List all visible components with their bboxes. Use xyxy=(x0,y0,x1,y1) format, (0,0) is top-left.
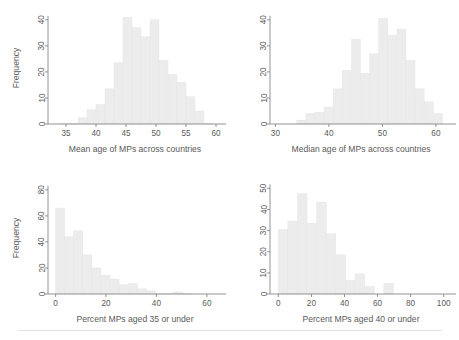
page-divider-rule xyxy=(18,330,442,331)
bar-group xyxy=(297,19,443,124)
y-tick-label: 80 xyxy=(38,185,47,195)
y-tick-label: 40 xyxy=(38,237,47,247)
y-tick-label: 60 xyxy=(38,211,47,221)
histogram-bar xyxy=(137,289,146,294)
histogram-bar xyxy=(365,287,375,294)
y-tick-label: 10 xyxy=(260,93,269,103)
histogram-bar xyxy=(433,114,442,124)
x-tick-label: 20 xyxy=(101,299,111,308)
y-tick-label: 20 xyxy=(38,67,47,77)
x-tick-label: 80 xyxy=(406,299,416,308)
y-tick-label: 30 xyxy=(260,226,269,236)
x-axis-title: Mean age of MPs across countries xyxy=(69,144,201,154)
histogram-bar xyxy=(370,54,379,124)
histogram-bar xyxy=(83,255,92,294)
y-tick-label: 20 xyxy=(260,247,269,257)
x-tick-label: 40 xyxy=(324,129,334,138)
histogram-bar xyxy=(297,194,307,294)
histogram-bar xyxy=(355,274,365,294)
histogram-figure: 010203040354045505560Mean age of MPs acr… xyxy=(0,0,459,340)
histogram-bar xyxy=(150,20,159,124)
bar-group xyxy=(278,194,393,294)
y-tick-label: 20 xyxy=(260,67,269,77)
bar-group xyxy=(60,17,213,124)
histogram-bar xyxy=(424,102,433,124)
x-tick-label: 50 xyxy=(378,129,388,138)
y-tick-label: 40 xyxy=(260,15,269,25)
y-tick-label: 0 xyxy=(38,291,47,296)
histogram-bar xyxy=(159,60,168,124)
histogram-bar xyxy=(110,279,119,294)
histogram-bar xyxy=(326,234,336,294)
x-tick-label: 40 xyxy=(340,299,350,308)
panel-percent-40-under: 01020304050020406080100Percent MPs aged … xyxy=(230,170,459,340)
bar-group xyxy=(56,208,192,294)
x-tick-label: 60 xyxy=(431,129,441,138)
histogram-bar xyxy=(105,89,114,124)
plot-percent-35-under: 0204060800204060Percent MPs aged 35 or u… xyxy=(0,170,229,340)
plot-median-age: 01020304030405060Median age of MPs acros… xyxy=(230,0,459,170)
histogram-bar xyxy=(388,35,397,124)
x-tick-label: 35 xyxy=(61,129,71,138)
histogram-bar xyxy=(96,104,105,124)
y-tick-label: 0 xyxy=(260,121,269,126)
histogram-bar xyxy=(128,284,137,294)
histogram-bar xyxy=(101,275,110,294)
histogram-bar xyxy=(379,19,388,124)
histogram-bar xyxy=(297,120,306,124)
x-tick-label: 40 xyxy=(91,129,101,138)
histogram-bar xyxy=(406,60,415,124)
x-tick-label: 45 xyxy=(121,129,131,138)
histogram-bar xyxy=(345,280,355,294)
x-tick-label: 0 xyxy=(53,299,58,308)
x-tick-label: 55 xyxy=(181,129,191,138)
histogram-bar xyxy=(146,291,155,294)
x-tick-label: 30 xyxy=(271,129,281,138)
histogram-bar xyxy=(360,73,369,124)
histogram-bar xyxy=(336,255,346,294)
histogram-bar xyxy=(114,63,123,124)
histogram-bar xyxy=(132,28,141,124)
histogram-bar xyxy=(317,202,327,294)
x-axis-title: Percent MPs aged 35 or under xyxy=(76,314,193,324)
y-tick-label: 30 xyxy=(38,41,47,51)
plot-percent-40-under: 01020304050020406080100Percent MPs aged … xyxy=(230,170,459,340)
histogram-bar xyxy=(415,89,424,124)
y-tick-label: 30 xyxy=(260,41,269,51)
x-tick-label: 60 xyxy=(211,129,221,138)
plot-mean-age: 010203040354045505560Mean age of MPs acr… xyxy=(0,0,229,170)
histogram-bar xyxy=(168,75,177,124)
x-axis-title: Median age of MPs across countries xyxy=(292,144,431,154)
x-tick-label: 20 xyxy=(307,299,317,308)
y-tick-label: 10 xyxy=(260,268,269,278)
y-tick-label: 50 xyxy=(260,183,269,193)
histogram-bar xyxy=(78,117,87,124)
histogram-bar xyxy=(351,39,360,124)
y-tick-label: 40 xyxy=(38,15,47,25)
y-axis-title: Frequency xyxy=(11,217,21,258)
histogram-bar xyxy=(141,37,150,124)
x-tick-label: 60 xyxy=(202,299,212,308)
histogram-bar xyxy=(324,107,333,124)
histogram-bar xyxy=(288,221,298,294)
histogram-bar xyxy=(195,111,204,124)
y-tick-label: 0 xyxy=(260,291,269,296)
y-tick-label: 20 xyxy=(38,263,47,273)
y-tick-label: 0 xyxy=(38,121,47,126)
panel-percent-35-under: 0204060800204060Percent MPs aged 35 or u… xyxy=(0,170,229,340)
histogram-bar xyxy=(119,285,128,294)
histogram-bar xyxy=(65,237,74,294)
histogram-bar xyxy=(384,283,394,294)
x-tick-label: 100 xyxy=(437,299,451,308)
histogram-bar xyxy=(123,17,132,124)
x-tick-label: 50 xyxy=(151,129,161,138)
y-tick-label: 10 xyxy=(38,93,47,103)
histogram-bar xyxy=(307,223,317,294)
x-axis-title: Percent MPs aged 40 or under xyxy=(302,314,419,324)
y-axis-title: Frequency xyxy=(11,47,21,88)
histogram-bar xyxy=(342,71,351,124)
histogram-bar xyxy=(306,114,315,124)
histogram-bar xyxy=(87,110,96,124)
x-tick-label: 60 xyxy=(373,299,383,308)
x-tick-label: 40 xyxy=(152,299,162,308)
